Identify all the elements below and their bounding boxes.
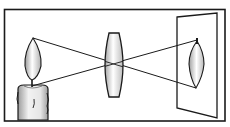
optics-diagram-svg (0, 0, 230, 127)
diagram (0, 0, 230, 127)
convex-lens (105, 33, 123, 97)
